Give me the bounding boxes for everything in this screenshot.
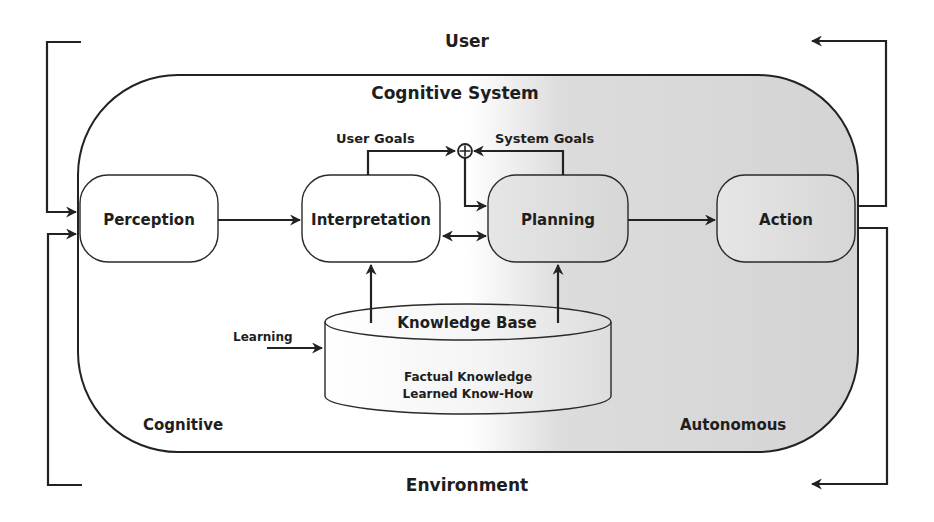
user-goals-label: User Goals (336, 131, 415, 146)
perception-node: Perception (80, 175, 218, 262)
interpretation-label: Interpretation (311, 211, 431, 229)
action-label: Action (759, 211, 813, 229)
interpretation-node: Interpretation (302, 175, 440, 262)
knowledge-base-cylinder: Knowledge Base Factual Knowledge Learned… (325, 304, 611, 414)
environment-to-system-arrow (48, 234, 82, 485)
user-label: User (445, 31, 489, 51)
planning-label: Planning (521, 211, 595, 229)
system-title: Cognitive System (371, 83, 539, 103)
cognitive-corner-label: Cognitive (143, 416, 223, 434)
planning-node: Planning (488, 175, 628, 262)
knowledge-base-title: Knowledge Base (397, 314, 536, 332)
system-goals-label: System Goals (495, 131, 595, 146)
goal-combine-icon (458, 144, 472, 158)
cognitive-system-diagram: User Environment Cognitive System Cognit… (0, 0, 934, 522)
learned-know-how-label: Learned Know-How (403, 387, 534, 401)
action-node: Action (717, 175, 855, 262)
environment-label: Environment (406, 475, 528, 495)
learning-label: Learning (233, 330, 293, 344)
factual-knowledge-label: Factual Knowledge (404, 370, 532, 384)
perception-label: Perception (103, 211, 195, 229)
user-to-system-arrow (47, 42, 81, 212)
autonomous-corner-label: Autonomous (680, 416, 786, 434)
